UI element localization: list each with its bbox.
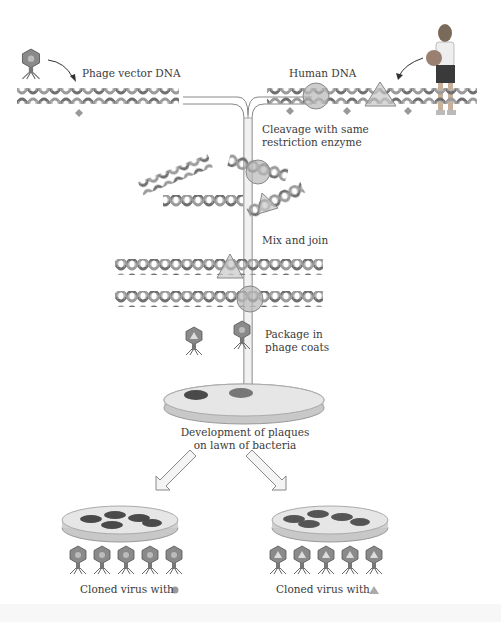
plaque xyxy=(184,390,208,400)
recombinant-dna-triangle xyxy=(115,259,323,275)
cleaved-fragments xyxy=(138,152,306,220)
arrowhead-icon xyxy=(396,73,403,80)
petri-dish xyxy=(164,384,324,424)
petri-dish-right xyxy=(272,506,388,542)
plaques-label-line2: on lawn of bacteria xyxy=(160,439,330,452)
cloned-phages-left xyxy=(70,546,182,574)
package-label-line2: phage coats xyxy=(265,341,329,354)
cleavage-label-line1: Cleavage with same xyxy=(262,123,369,136)
restriction-site-marker xyxy=(343,107,351,115)
cloned-phages-right xyxy=(270,546,382,574)
phage-icon xyxy=(22,49,39,79)
cleavage-label-line2: restriction enzyme xyxy=(262,136,362,149)
curved-arrow-icon xyxy=(48,60,73,78)
restriction-site-marker xyxy=(286,107,294,115)
recombinant-dna-circle xyxy=(115,291,323,307)
diagram-canvas xyxy=(0,0,501,622)
circle-insert-icon xyxy=(303,83,329,109)
restriction-site-marker xyxy=(75,109,83,117)
petri-dish-left xyxy=(62,506,178,542)
circle-insert-icon xyxy=(237,286,263,312)
curved-arrow-icon xyxy=(399,58,423,76)
human-dna-label: Human DNA xyxy=(289,67,356,80)
triangle-marker-icon xyxy=(369,586,379,594)
plaques-label-line1: Development of plaques xyxy=(160,426,330,439)
arrow-down-right-icon xyxy=(246,450,286,490)
arrow-down-left-icon xyxy=(156,450,196,490)
phage-vector-dna-label: Phage vector DNA xyxy=(82,67,180,80)
package-label-line1: Package in xyxy=(265,328,323,341)
cloned-virus-circle-label: Cloned virus with xyxy=(80,583,174,596)
mix-and-join-label: Mix and join xyxy=(262,234,328,247)
phage-icon xyxy=(186,327,202,355)
cloned-virus-triangle-label: Cloned virus with xyxy=(276,583,370,596)
plaque xyxy=(229,388,253,398)
restriction-site-marker xyxy=(404,107,412,115)
phage-vector-dna-helix xyxy=(17,88,179,104)
